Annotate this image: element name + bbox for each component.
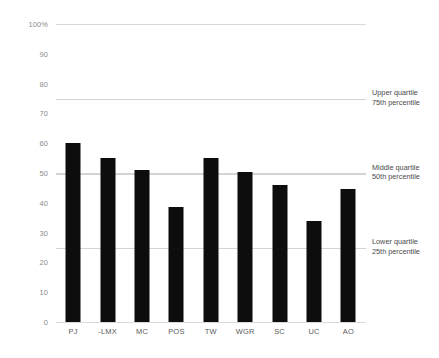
bar-slot (228, 24, 262, 322)
y-tick-label: 80 (14, 79, 48, 88)
bar-slot (194, 24, 228, 322)
bar-sc (272, 185, 287, 322)
bar-pj (66, 143, 81, 322)
x-tick-label-lmx: -LMX (90, 327, 124, 336)
y-tick-label: 100% (14, 20, 48, 29)
x-tick-label-wgr: WGR (228, 327, 262, 336)
bar-slot (331, 24, 365, 322)
bars-layer: PJ -LMX MC POS TW WGR SC UC (56, 0, 366, 358)
x-tick-label-ao: AO (331, 327, 365, 336)
x-tick-label-mc: MC (125, 327, 159, 336)
y-tick-label: 50 (14, 169, 48, 178)
annotation-upper-quartile-line1: Upper quartile (372, 88, 420, 98)
y-tick-label: 30 (14, 228, 48, 237)
x-tick-label-pos: POS (159, 327, 193, 336)
y-tick-label: 60 (14, 139, 48, 148)
y-tick-label: 40 (14, 198, 48, 207)
bar-mc (134, 170, 149, 322)
y-tick-label: 20 (14, 258, 48, 267)
x-tick-label-pj: PJ (56, 327, 90, 336)
bar-slot (159, 24, 193, 322)
bar-tw (203, 158, 218, 322)
bar-chart: 100% 90 80 70 60 50 40 30 20 10 0 PJ -LM… (0, 0, 439, 358)
annotation-upper-quartile: Upper quartile 75th percentile (372, 88, 420, 107)
y-tick-label: 90 (14, 49, 48, 58)
bar-slot (297, 24, 331, 322)
annotation-lower-quartile-line2: 25th percentile (372, 247, 420, 257)
bar-slot (56, 24, 90, 322)
bar-wgr (238, 172, 253, 322)
annotation-lower-quartile: Lower quartile 25th percentile (372, 237, 420, 256)
bar-lmx (100, 158, 115, 322)
x-tick-label-sc: SC (262, 327, 296, 336)
annotation-lower-quartile-line1: Lower quartile (372, 237, 420, 247)
annotation-middle-quartile: Middle quartile 50th percentile (372, 163, 420, 182)
bar-ao (341, 189, 356, 322)
y-tick-label: 0 (14, 318, 48, 327)
bar-slot (125, 24, 159, 322)
bar-slot (262, 24, 296, 322)
annotation-middle-quartile-line2: 50th percentile (372, 172, 420, 182)
annotation-upper-quartile-line2: 75th percentile (372, 98, 420, 108)
x-tick-label-uc: UC (297, 327, 331, 336)
x-tick-label-tw: TW (194, 327, 228, 336)
bar-slot (90, 24, 124, 322)
bar-pos (169, 207, 184, 322)
y-tick-label: 10 (14, 288, 48, 297)
y-axis: 100% 90 80 70 60 50 40 30 20 10 0 (8, 0, 48, 358)
annotation-middle-quartile-line1: Middle quartile (372, 163, 420, 173)
bar-uc (306, 221, 321, 322)
y-tick-label: 70 (14, 109, 48, 118)
